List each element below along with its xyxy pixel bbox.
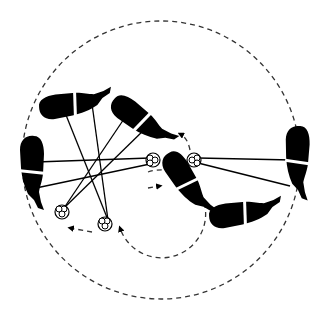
inner-trajectory-arrow-left	[70, 228, 92, 232]
diagram-svg	[0, 0, 324, 317]
pivot-a-icon	[146, 153, 160, 167]
body-silhouette-top-center	[106, 90, 179, 155]
diagram-canvas	[0, 0, 324, 317]
outer-trajectory-circle	[22, 21, 300, 299]
body-silhouette-bottom-right	[208, 196, 285, 230]
pivot-b-icon	[187, 153, 201, 167]
inner-trajectory-arrow-top	[180, 134, 190, 150]
pivot-c-icon	[55, 205, 69, 219]
body-silhouette-top-left	[38, 87, 115, 121]
inner-trajectory-arrow-bottom	[148, 186, 160, 188]
pivot-d-icon	[98, 217, 112, 231]
body-silhouette-left	[20, 136, 44, 210]
